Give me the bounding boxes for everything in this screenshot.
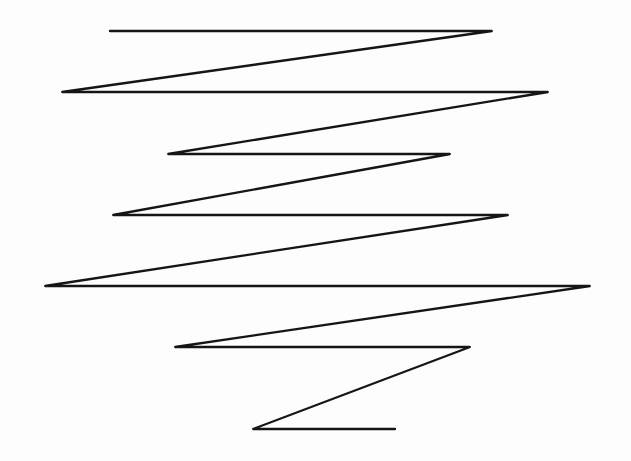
zigzag-figure-canvas	[0, 0, 631, 461]
figure-background	[0, 0, 631, 461]
